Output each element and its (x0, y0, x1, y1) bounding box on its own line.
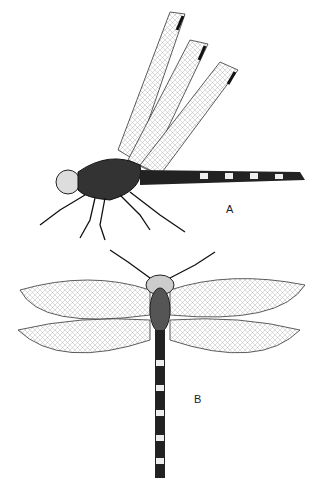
dragonfly-lateral (40, 12, 305, 240)
dragonfly-drawings (0, 0, 319, 490)
dragonfly-dorsal (18, 250, 305, 478)
figure-label-a: A (226, 203, 233, 215)
dragonfly-illustration: A B (0, 0, 319, 490)
figure-label-b: B (194, 393, 201, 405)
